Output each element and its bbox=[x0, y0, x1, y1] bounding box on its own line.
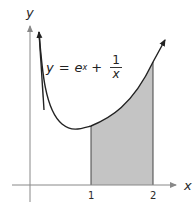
eq-exp: x bbox=[83, 63, 88, 72]
eq-fraction: 1 x bbox=[110, 54, 122, 81]
x-tick-1: 1 bbox=[88, 190, 94, 201]
eq-denominator: x bbox=[113, 68, 120, 81]
x-tick-2: 2 bbox=[150, 190, 156, 201]
eq-equals: = bbox=[59, 60, 70, 75]
graph: y x 1 2 y = ex + 1 x bbox=[0, 0, 196, 212]
function-equation: y = ex + 1 x bbox=[46, 54, 122, 81]
eq-lhs: y bbox=[46, 60, 54, 75]
eq-base: e bbox=[75, 60, 83, 75]
y-axis-label: y bbox=[26, 5, 34, 20]
plot-area bbox=[0, 0, 196, 212]
eq-plus: + bbox=[91, 60, 102, 75]
x-axis-label: x bbox=[184, 178, 192, 193]
eq-numerator: 1 bbox=[110, 54, 122, 68]
